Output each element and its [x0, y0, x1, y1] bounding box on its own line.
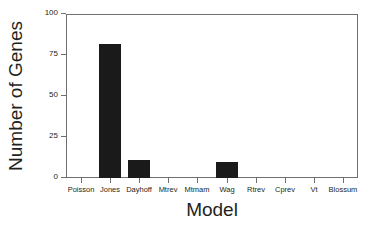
y-tick-mark [61, 177, 66, 178]
x-tick-mark [81, 178, 82, 183]
y-tick-label: 50 [49, 90, 58, 99]
x-tick-mark [168, 178, 169, 183]
y-axis-title: Number of Genes [0, 0, 32, 192]
y-tick-label: 75 [49, 49, 58, 58]
x-tick-mark [197, 178, 198, 183]
y-tick-label: 0 [54, 172, 58, 181]
y-tick-mark [61, 95, 66, 96]
x-tick-mark [343, 178, 344, 183]
x-tick-mark [256, 178, 257, 183]
y-tick-mark [61, 136, 66, 137]
y-axis-title-text: Number of Genes [5, 21, 27, 171]
y-tick-label: 100 [45, 8, 58, 17]
bar-wag [216, 162, 238, 178]
bar-jones [99, 44, 121, 178]
x-tick-mark [227, 178, 228, 183]
bar-dayhoff [128, 160, 150, 178]
x-tick-label: Blossum [309, 185, 370, 194]
y-tick-mark [61, 54, 66, 55]
x-tick-mark [285, 178, 286, 183]
x-tick-mark [139, 178, 140, 183]
bar-chart-figure: Number of Genes 0255075100 PoissonJonesD… [0, 0, 370, 232]
y-tick-mark [61, 13, 66, 14]
x-axis-title: Model [66, 199, 358, 221]
y-tick-label: 25 [49, 131, 58, 140]
x-tick-mark [110, 178, 111, 183]
x-tick-mark [314, 178, 315, 183]
